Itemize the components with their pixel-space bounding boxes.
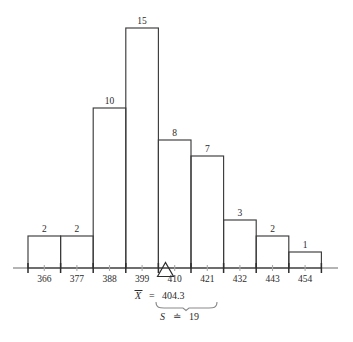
bar-value-label-377: 2 — [75, 224, 80, 234]
mean-equals-sign: = — [149, 290, 155, 301]
spread-brace — [156, 302, 217, 311]
bar-421 — [191, 156, 224, 268]
spread-equals-sign: ≐ — [173, 311, 181, 322]
axis-tick-labels-group: 366377388399410421432443454 — [37, 274, 312, 284]
axis-tick-label-366: 366 — [37, 274, 52, 284]
bar-value-label-388: 10 — [105, 96, 115, 106]
bar-value-label-443: 2 — [270, 224, 275, 234]
bar-value-label-432: 3 — [238, 208, 243, 218]
axis-tick-label-377: 377 — [70, 274, 85, 284]
spread-value: 19 — [189, 311, 199, 322]
bar-410 — [158, 140, 191, 268]
mean-variable-symbol: X — [134, 290, 142, 301]
bar-377 — [61, 236, 94, 268]
mean-annotation: X = 404.3 — [134, 290, 185, 301]
axis-tick-label-421: 421 — [200, 274, 215, 284]
bar-388 — [93, 108, 126, 268]
bar-value-label-421: 7 — [205, 144, 210, 154]
bars-group — [28, 28, 321, 268]
axis-tick-label-443: 443 — [265, 274, 280, 284]
bar-399 — [126, 28, 159, 268]
bar-value-label-410: 8 — [172, 128, 177, 138]
spread-variable-symbol: S — [160, 311, 165, 322]
bar-366 — [28, 236, 61, 268]
axis-tick-label-454: 454 — [298, 274, 313, 284]
histogram-canvas: 22101587321 366377388399410421432443454 … — [0, 0, 353, 342]
spread-annotation: S ≐ 19 — [160, 311, 199, 322]
bar-value-labels-group: 22101587321 — [42, 16, 308, 250]
axis-tick-label-399: 399 — [135, 274, 150, 284]
axis-tick-label-388: 388 — [102, 274, 117, 284]
bar-443 — [256, 236, 289, 268]
bar-432 — [224, 220, 257, 268]
bar-value-label-454: 1 — [303, 240, 308, 250]
bar-value-label-366: 2 — [42, 224, 47, 234]
axis-tick-label-410: 410 — [168, 274, 183, 284]
axis-tick-label-432: 432 — [233, 274, 248, 284]
mean-value: 404.3 — [162, 290, 185, 301]
histogram-figure: 22101587321 366377388399410421432443454 … — [0, 0, 353, 342]
bar-value-label-399: 15 — [137, 16, 147, 26]
